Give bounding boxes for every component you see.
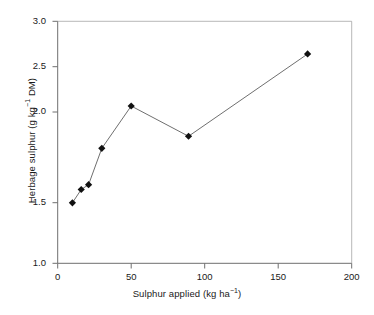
chart-screenshot: 3.0 2.5 2.0 1.5 1.0 0 50 100 150 200 Sul… — [0, 0, 374, 315]
data-point-marker — [85, 181, 92, 188]
x-axis-title-superscript: −1 — [230, 287, 238, 294]
data-point-marker — [185, 133, 192, 140]
data-point-marker — [98, 145, 105, 152]
data-series-group — [69, 50, 311, 206]
scatter-line-chart: 3.0 2.5 2.0 1.5 1.0 0 50 100 150 200 Sul… — [0, 0, 374, 315]
data-point-marker — [69, 199, 76, 206]
data-point-marker — [128, 102, 135, 109]
x-axis-title-prefix: Sulphur applied (kg ha — [133, 288, 230, 299]
x-axis-title-suffix: ) — [238, 288, 241, 299]
series-line — [72, 54, 307, 203]
x-tick-label-50: 50 — [111, 271, 151, 282]
x-tick-marks — [58, 263, 352, 268]
y-axis-title: Herbage sulphur (g kg−1 DM) — [26, 26, 37, 256]
x-axis-title: Sulphur applied (kg ha−1) — [0, 288, 374, 299]
chart-canvas — [0, 0, 374, 315]
x-tick-label-0: 0 — [38, 271, 78, 282]
x-tick-label-150: 150 — [258, 271, 298, 282]
data-point-marker — [78, 186, 85, 193]
y-axis-title-suffix: DM) — [26, 78, 37, 99]
series-markers — [69, 50, 311, 206]
y-tick-label-1-0: 1.0 — [18, 257, 46, 268]
x-tick-label-200: 200 — [332, 271, 372, 282]
y-axis-title-prefix: Herbage sulphur (g kg — [26, 107, 37, 203]
x-tick-label-100: 100 — [185, 271, 225, 282]
y-tick-label-3-0: 3.0 — [18, 15, 46, 26]
data-point-marker — [304, 50, 311, 57]
y-axis-title-superscript: −1 — [24, 99, 31, 107]
y-tick-marks — [53, 21, 58, 263]
axis-lines — [58, 21, 352, 263]
